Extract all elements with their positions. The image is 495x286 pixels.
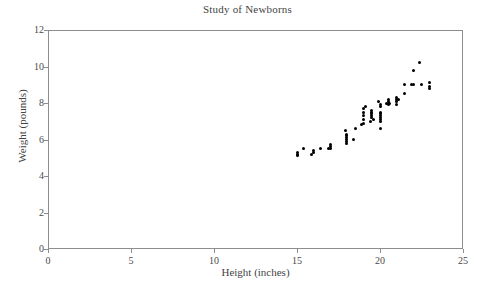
x-tick-label: 20	[367, 256, 393, 266]
chart-title: Study of Newborns	[0, 3, 495, 15]
y-tick-mark	[44, 213, 48, 214]
y-axis-title: Weight (pounds)	[16, 66, 28, 186]
y-tick-mark	[44, 140, 48, 141]
plot-area-frame	[48, 30, 463, 249]
x-tick-mark	[297, 249, 298, 253]
x-tick-mark	[463, 249, 464, 253]
x-tick-mark	[380, 249, 381, 253]
x-tick-mark	[48, 249, 49, 253]
y-tick-mark	[44, 30, 48, 31]
y-tick-label: 2	[22, 208, 44, 218]
x-tick-label: 0	[35, 256, 61, 266]
y-tick-mark	[44, 67, 48, 68]
x-tick-label: 5	[118, 256, 144, 266]
scatter-plot-figure: Study of Newborns 024681012 0510152025 H…	[0, 0, 495, 286]
y-tick-mark	[44, 176, 48, 177]
x-tick-mark	[131, 249, 132, 253]
x-tick-label: 10	[201, 256, 227, 266]
x-tick-mark	[214, 249, 215, 253]
x-tick-label: 25	[450, 256, 476, 266]
y-tick-label: 0	[22, 244, 44, 254]
x-tick-label: 15	[284, 256, 310, 266]
x-axis-title: Height (inches)	[48, 266, 463, 278]
y-tick-label: 12	[22, 25, 44, 35]
y-tick-mark	[44, 103, 48, 104]
